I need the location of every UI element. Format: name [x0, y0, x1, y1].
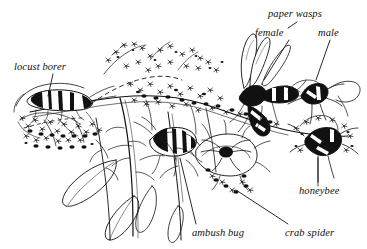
insect-plant-illustration: [0, 0, 367, 249]
label-ambush-bug: ambush bug: [192, 228, 244, 239]
label-male: male: [318, 28, 339, 39]
illustration-figure: locust borer paper wasps female male hon…: [0, 0, 367, 249]
crab-spider-body: [201, 140, 251, 171]
label-paper-wasps: paper wasps: [268, 9, 322, 20]
ambush-bug: [134, 117, 202, 176]
leader-paper-wasps: [288, 22, 297, 28]
upper-flower-sprays: [104, 42, 224, 74]
main-stems: [30, 96, 348, 240]
leader-ambush-bug: [180, 158, 196, 224]
label-female: female: [255, 28, 284, 39]
honeybee: [288, 115, 358, 186]
label-honeybee: honeybee: [299, 186, 339, 197]
wasp-body: [230, 80, 310, 136]
label-locust-borer: locust borer: [14, 62, 66, 73]
paper-wasp-male: [286, 80, 360, 124]
leader-male: [316, 40, 330, 80]
label-crab-spider: crab spider: [285, 228, 334, 239]
wasp-wings: [241, 34, 290, 88]
locust-borer-beetle: [27, 86, 116, 124]
leader-crab-spider: [236, 190, 288, 224]
